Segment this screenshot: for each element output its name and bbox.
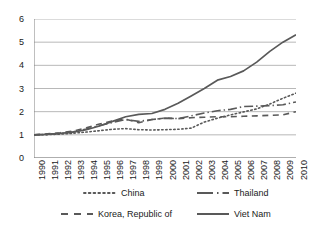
- x-tick-label: 1998: [142, 160, 151, 180]
- chart-legend: China Thailand Korea, Republic of Viet N…: [0, 186, 319, 230]
- x-tick-label: 2008: [273, 160, 282, 180]
- x-tick-label: 2005: [234, 160, 243, 180]
- x-tick-label: 1997: [129, 160, 138, 180]
- x-tick-label: 2009: [286, 160, 295, 180]
- x-tick-label: 2010: [300, 160, 309, 180]
- y-tick-label: 6: [19, 15, 24, 24]
- x-tick-label: 2003: [208, 160, 217, 180]
- y-tick-label: 3: [19, 84, 24, 93]
- x-tick-label: 1996: [116, 160, 125, 180]
- x-tick-label: 1991: [51, 160, 60, 180]
- legend-swatch-china: [83, 187, 117, 199]
- line-chart-figure: 0123456 19901991199219931994199519961997…: [0, 0, 319, 230]
- series-line-viet-nam: [34, 35, 296, 135]
- x-tick-label: 2000: [169, 160, 178, 180]
- y-tick-label: 0: [19, 154, 24, 163]
- x-tick-label: 1995: [103, 160, 112, 180]
- series-line-china: [34, 93, 296, 135]
- legend-swatch-thailand: [196, 187, 230, 199]
- y-tick-label: 5: [19, 38, 24, 47]
- x-tick-label: 1993: [77, 160, 86, 180]
- x-tick-label: 1992: [64, 160, 73, 180]
- legend-swatch-korea: [60, 208, 94, 220]
- legend-label-korea: Korea, Republic of: [98, 208, 172, 220]
- legend-item-china: China: [83, 186, 145, 200]
- legend-label-china: China: [121, 187, 145, 199]
- legend-item-vietnam: Viet Nam: [196, 207, 271, 221]
- x-tick-label: 2001: [182, 160, 191, 180]
- x-tick-label: 2004: [221, 160, 230, 180]
- y-tick-label: 1: [19, 130, 24, 139]
- legend-label-thailand: Thailand: [234, 187, 269, 199]
- plot-svg: [34, 19, 296, 158]
- plot-area: [34, 19, 296, 158]
- x-tick-label: 1999: [155, 160, 164, 180]
- x-tick-label: 2006: [247, 160, 256, 180]
- y-axis: 0123456: [0, 19, 28, 158]
- x-tick-label: 2007: [260, 160, 269, 180]
- x-tick-label: 2002: [195, 160, 204, 180]
- x-tick-label: 1990: [38, 160, 47, 180]
- legend-swatch-vietnam: [196, 208, 230, 220]
- legend-label-vietnam: Viet Nam: [234, 208, 271, 220]
- legend-item-korea: Korea, Republic of: [60, 207, 172, 221]
- x-tick-label: 1994: [90, 160, 99, 180]
- y-tick-label: 4: [19, 61, 24, 70]
- legend-item-thailand: Thailand: [196, 186, 269, 200]
- y-tick-label: 2: [19, 107, 24, 116]
